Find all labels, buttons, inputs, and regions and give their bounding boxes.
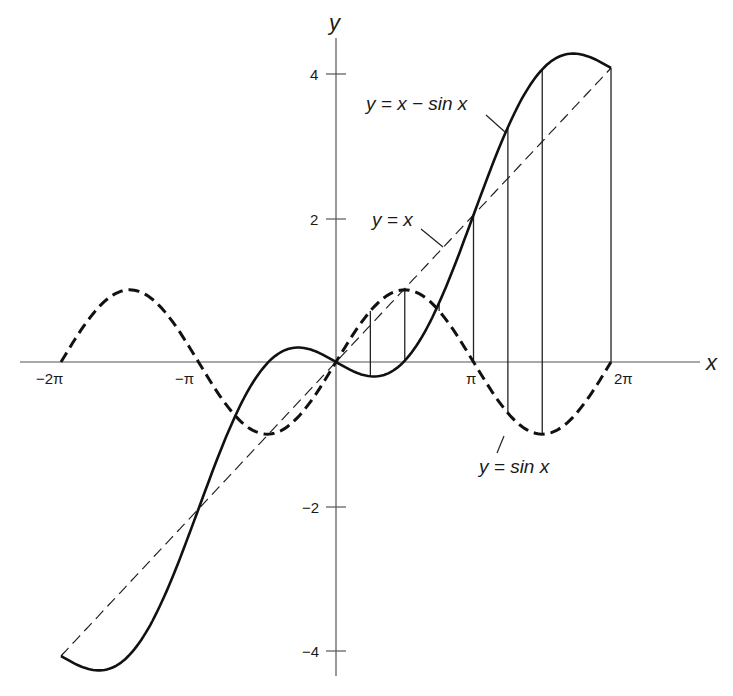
y-axis-label: y [327, 10, 342, 35]
tick-x-negpi: −π [175, 370, 194, 387]
x-axis-label: x [705, 350, 718, 375]
tick-x-neg2pi: −2π [36, 370, 63, 387]
tick-x-pi: π [466, 370, 476, 387]
leader-x-minus-sin [486, 115, 505, 132]
label-y-eq-x: y = x [370, 209, 414, 230]
projection-lines [370, 68, 611, 434]
tick-y-neg2: −2 [302, 499, 319, 516]
tick-y-2: 2 [310, 211, 318, 228]
label-x-minus-sin: y = x − sin x [364, 93, 469, 114]
leader-y-eq-x [421, 229, 443, 247]
tick-y-4: 4 [310, 66, 318, 83]
leader-sin [497, 436, 504, 453]
label-sin: y = sin x [477, 456, 551, 477]
tick-y-neg4: −4 [302, 643, 319, 660]
function-plot: y x −2π −π π 2π 4 2 −2 −4 y = x − sin x … [0, 0, 733, 696]
tick-x-2pi: 2π [614, 370, 633, 387]
